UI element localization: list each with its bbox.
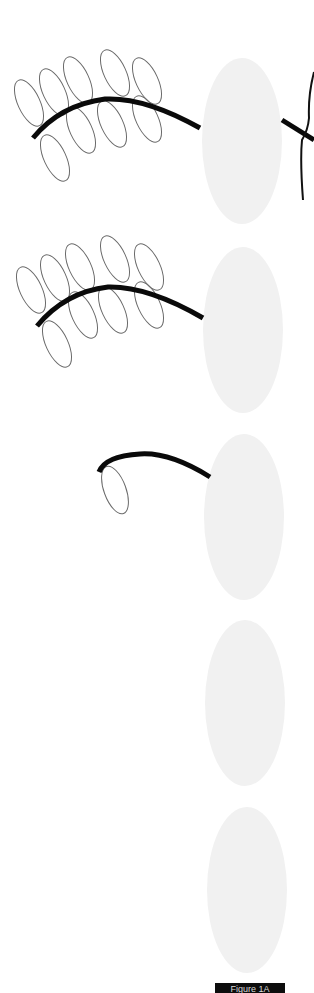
panel-5 xyxy=(207,807,287,973)
panel-4 xyxy=(205,620,285,786)
panel-1 xyxy=(8,46,314,224)
figure-canvas xyxy=(0,0,314,993)
stem xyxy=(37,287,203,326)
oval-body xyxy=(205,620,285,786)
oval-body xyxy=(203,247,283,413)
leaflets xyxy=(8,46,167,186)
panel-2 xyxy=(10,232,283,413)
stem xyxy=(99,454,210,477)
figure-label: Figure 1A xyxy=(215,983,285,993)
stem xyxy=(33,99,200,138)
oval-body xyxy=(204,434,284,600)
oval-body xyxy=(207,807,287,973)
panel-3 xyxy=(96,434,284,600)
oval-body xyxy=(202,58,282,224)
leaflets xyxy=(10,232,169,372)
